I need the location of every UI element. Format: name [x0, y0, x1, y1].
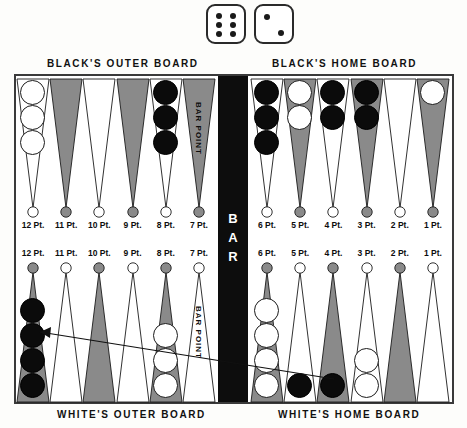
- point-10-top-left[interactable]: 10 Pt.: [82, 78, 115, 218]
- point-4-top-right[interactable]: 4 Pt.: [316, 78, 349, 218]
- bar-label: BAR: [218, 76, 248, 402]
- checker-black[interactable]: [354, 80, 379, 105]
- checker-white[interactable]: [20, 105, 45, 130]
- bar-point-label: BAR POINT: [182, 92, 215, 164]
- point-1-bottom-right[interactable]: 1 Pt.: [416, 260, 449, 400]
- checker-white[interactable]: [254, 323, 279, 348]
- checker-white[interactable]: [354, 348, 379, 373]
- point-2-top-right[interactable]: 2 Pt.: [383, 78, 416, 218]
- bar-point-label: BAR POINT: [182, 296, 215, 368]
- checker-black[interactable]: [354, 105, 379, 130]
- checker-white[interactable]: [153, 348, 178, 373]
- bar-text: BAR: [226, 211, 241, 268]
- point-label: 1 Pt.: [413, 220, 453, 230]
- checker-black[interactable]: [254, 105, 279, 130]
- quadrant-blacks-outer-board: 12 Pt.11 Pt.10 Pt.9 Pt.8 Pt.7 Pt.BAR POI…: [16, 78, 216, 218]
- caption-blacks-home-board: BLACK'S HOME BOARD: [272, 58, 417, 69]
- bar[interactable]: BAR: [218, 76, 248, 402]
- point-3-top-right[interactable]: 3 Pt.: [350, 78, 383, 218]
- point-1-top-right[interactable]: 1 Pt.: [416, 78, 449, 218]
- point-3-bottom-right[interactable]: 3 Pt.: [350, 260, 383, 400]
- point-12-bottom-left[interactable]: 12 Pt.: [16, 260, 49, 400]
- checker-white[interactable]: [254, 348, 279, 373]
- point-8-top-left[interactable]: 8 Pt.: [149, 78, 182, 218]
- point-label: 7 Pt.: [179, 248, 219, 258]
- point-label: 1 Pt.: [413, 248, 453, 258]
- checker-black[interactable]: [20, 373, 45, 398]
- checker-black[interactable]: [254, 80, 279, 105]
- checker-white[interactable]: [420, 80, 445, 105]
- dice-area: [206, 4, 296, 48]
- point-5-bottom-right[interactable]: 5 Pt.: [283, 260, 316, 400]
- point-10-bottom-left[interactable]: 10 Pt.: [82, 260, 115, 400]
- point-7-top-left[interactable]: 7 Pt.BAR POINT: [182, 78, 215, 218]
- checker-black[interactable]: [153, 130, 178, 155]
- checker-black[interactable]: [20, 348, 45, 373]
- checker-black[interactable]: [153, 105, 178, 130]
- point-9-top-left[interactable]: 9 Pt.: [116, 78, 149, 218]
- quadrant-blacks-home-board: 6 Pt.5 Pt.4 Pt.3 Pt.2 Pt.1 Pt.: [250, 78, 450, 218]
- die-left[interactable]: [206, 4, 246, 44]
- checker-white[interactable]: [354, 373, 379, 398]
- point-4-bottom-right[interactable]: 4 Pt.: [316, 260, 349, 400]
- point-2-bottom-right[interactable]: 2 Pt.: [383, 260, 416, 400]
- point-7-bottom-left[interactable]: 7 Pt.BAR POINT: [182, 260, 215, 400]
- backgammon-board: 12 Pt.11 Pt.10 Pt.9 Pt.8 Pt.7 Pt.BAR POI…: [14, 74, 454, 404]
- checker-white[interactable]: [153, 373, 178, 398]
- caption-whites-home-board: WHITE'S HOME BOARD: [278, 409, 420, 420]
- point-6-bottom-right[interactable]: 6 Pt.: [250, 260, 283, 400]
- point-11-bottom-left[interactable]: 11 Pt.: [49, 260, 82, 400]
- point-5-top-right[interactable]: 5 Pt.: [283, 78, 316, 218]
- checker-white[interactable]: [20, 130, 45, 155]
- point-11-top-left[interactable]: 11 Pt.: [49, 78, 82, 218]
- checker-white[interactable]: [153, 323, 178, 348]
- checker-black[interactable]: [254, 130, 279, 155]
- point-label: 7 Pt.: [179, 220, 219, 230]
- checker-white[interactable]: [254, 373, 279, 398]
- checker-black[interactable]: [20, 323, 45, 348]
- die-right[interactable]: [254, 4, 294, 44]
- quadrant-whites-home-board: 6 Pt.5 Pt.4 Pt.3 Pt.2 Pt.1 Pt.: [250, 260, 450, 400]
- point-9-bottom-left[interactable]: 9 Pt.: [116, 260, 149, 400]
- point-6-top-right[interactable]: 6 Pt.: [250, 78, 283, 218]
- point-12-top-left[interactable]: 12 Pt.: [16, 78, 49, 218]
- caption-blacks-outer-board: BLACK'S OUTER BOARD: [47, 58, 199, 69]
- quadrant-whites-outer-board: 12 Pt.11 Pt.10 Pt.9 Pt.8 Pt.7 Pt.BAR POI…: [16, 260, 216, 400]
- point-8-bottom-left[interactable]: 8 Pt.: [149, 260, 182, 400]
- checker-white[interactable]: [254, 298, 279, 323]
- checker-black[interactable]: [153, 80, 178, 105]
- checker-white[interactable]: [20, 80, 45, 105]
- checker-black[interactable]: [20, 298, 45, 323]
- caption-whites-outer-board: WHITE'S OUTER BOARD: [57, 409, 206, 420]
